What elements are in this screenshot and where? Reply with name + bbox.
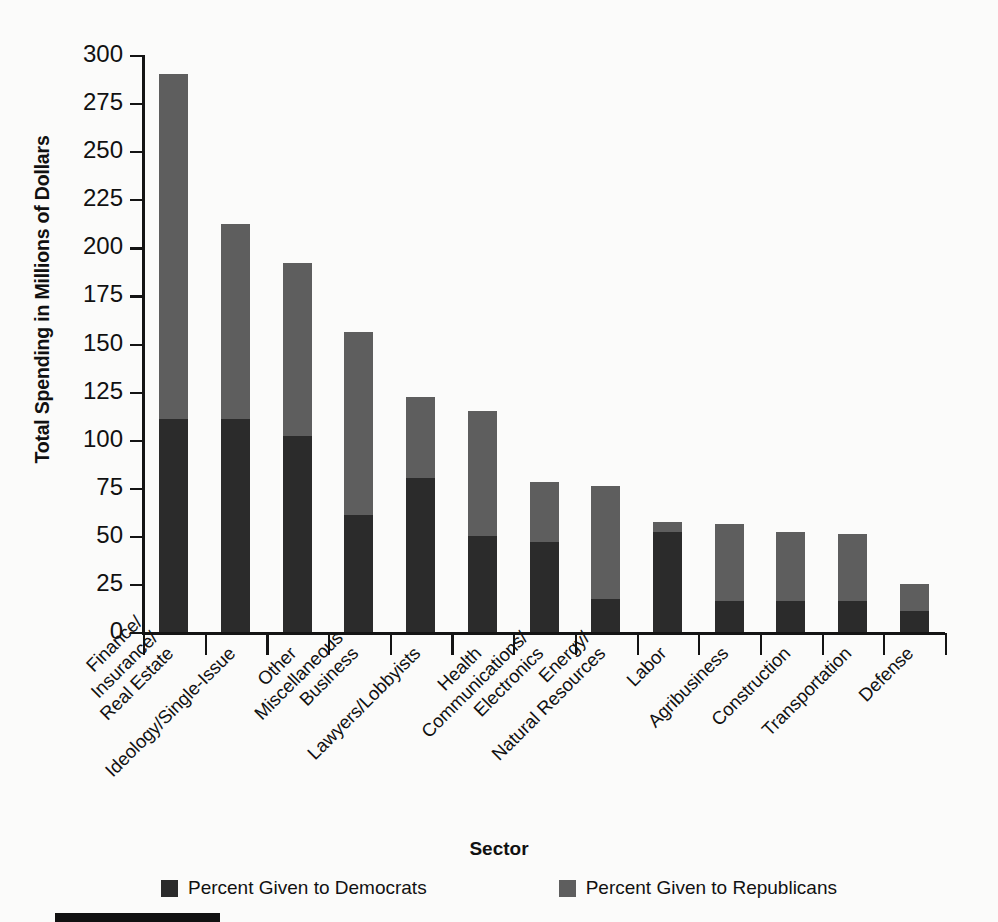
bar-segment-republicans: [159, 74, 188, 418]
bar-segment-democrats: [591, 599, 620, 632]
bar-segment-republicans: [468, 411, 497, 536]
x-axis-tick: [883, 633, 885, 655]
y-axis-title: Total Spending in Millions of Dollars: [31, 90, 54, 510]
bar-stack: [776, 532, 805, 632]
y-axis-tick-label: 100: [83, 426, 123, 452]
x-axis-tick: [266, 633, 268, 655]
x-axis-tick: [637, 633, 639, 655]
bar-stack: [900, 584, 929, 632]
y-axis-tick-label: 75: [96, 474, 123, 500]
bar-segment-democrats: [838, 601, 867, 632]
y-axis-tick: 100: [130, 440, 143, 442]
bar-stack: [159, 74, 188, 632]
bar-segment-democrats: [715, 601, 744, 632]
bar-stack: [468, 411, 497, 632]
bar-stack: [283, 263, 312, 632]
bar-segment-republicans: [530, 482, 559, 542]
x-axis-tick: [205, 633, 207, 655]
y-axis-tick: 225: [130, 199, 143, 201]
bar-segment-democrats: [221, 419, 250, 632]
x-axis-tick: [698, 633, 700, 655]
bar-segment-democrats: [159, 419, 188, 632]
y-axis-tick-label: 25: [96, 570, 123, 596]
y-axis-tick: 75: [130, 488, 143, 490]
x-axis-tick: [945, 633, 947, 655]
bar-segment-republicans: [591, 486, 620, 599]
plot-area: 3002752502252001751501251007550250: [143, 55, 945, 632]
bar-segment-republicans: [776, 532, 805, 601]
y-axis-tick-label: 150: [83, 330, 123, 356]
x-axis-category-label: Defense: [854, 642, 918, 706]
y-axis-tick: 125: [130, 392, 143, 394]
y-axis-tick: 300: [130, 55, 143, 57]
bar-segment-republicans: [653, 522, 682, 532]
bar-segment-republicans: [900, 584, 929, 611]
bar-segment-democrats: [900, 611, 929, 632]
y-axis-tick-label: 125: [83, 378, 123, 404]
y-axis-tick: 250: [130, 151, 143, 153]
legend-label: Percent Given to Republicans: [586, 877, 837, 899]
x-axis-tick: [822, 633, 824, 655]
y-axis-tick: 25: [130, 584, 143, 586]
x-axis-tick: [451, 633, 453, 655]
bar-segment-democrats: [530, 542, 559, 632]
bar-stack: [715, 524, 744, 632]
x-axis-tick: [390, 633, 392, 655]
bar-segment-republicans: [283, 263, 312, 436]
y-axis-tick: 275: [130, 103, 143, 105]
x-axis-tick: [760, 633, 762, 655]
legend-label: Percent Given to Democrats: [188, 877, 427, 899]
y-axis-tick-label: 200: [83, 233, 123, 259]
y-axis-tick: 150: [130, 344, 143, 346]
bar-segment-republicans: [838, 534, 867, 601]
y-axis-tick: 50: [130, 536, 143, 538]
bar-stack: [221, 224, 250, 632]
x-axis-title: Sector: [0, 838, 998, 860]
y-axis-tick-label: 225: [83, 185, 123, 211]
bar-stack: [530, 482, 559, 632]
legend-item: Percent Given to Democrats: [161, 877, 427, 899]
bar-segment-democrats: [468, 536, 497, 632]
page-rule-decoration: [55, 913, 220, 922]
bar-segment-democrats: [653, 532, 682, 632]
y-axis-tick: 175: [130, 295, 143, 297]
x-axis-category-label: Labor: [623, 642, 672, 691]
bar-stack: [406, 397, 435, 632]
bar-stack: [591, 486, 620, 632]
legend-swatch-icon: [161, 880, 178, 897]
bar-stack: [653, 522, 682, 632]
bar-segment-democrats: [344, 515, 373, 632]
y-axis-tick-label: 250: [83, 137, 123, 163]
y-axis-tick: 200: [130, 247, 143, 249]
legend-item: Percent Given to Republicans: [559, 877, 837, 899]
x-axis-line: [142, 632, 945, 635]
bar-stack: [344, 332, 373, 632]
chart-legend: Percent Given to DemocratsPercent Given …: [0, 877, 998, 899]
bar-segment-democrats: [406, 478, 435, 632]
y-axis-tick-label: 275: [83, 89, 123, 115]
bar-segment-republicans: [406, 397, 435, 478]
bar-segment-democrats: [776, 601, 805, 632]
y-axis-tick-label: 50: [96, 522, 123, 548]
bar-segment-democrats: [283, 436, 312, 632]
legend-swatch-icon: [559, 880, 576, 897]
y-axis-tick-label: 175: [83, 281, 123, 307]
bar-segment-republicans: [715, 524, 744, 601]
bar-segment-republicans: [344, 332, 373, 515]
bar-segment-republicans: [221, 224, 250, 418]
bar-stack: [838, 534, 867, 632]
y-axis-tick-label: 300: [83, 41, 123, 67]
